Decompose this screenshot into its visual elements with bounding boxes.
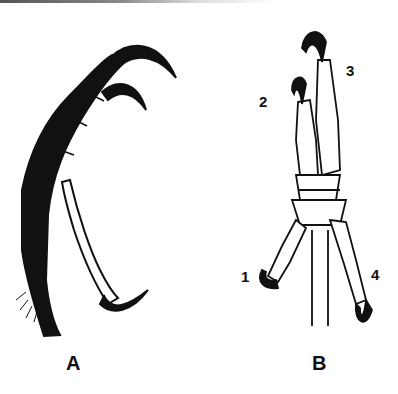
toe-label-3: 3 [346, 62, 354, 79]
talon-a-drawing [16, 46, 176, 336]
toe-label-4: 4 [371, 266, 379, 283]
panel-b-label: B [312, 352, 326, 375]
foot-b-drawing [260, 32, 372, 326]
panel-a-label: A [66, 352, 80, 375]
toe-label-2: 2 [259, 93, 267, 110]
toe-label-1: 1 [241, 268, 249, 285]
claw-illustration [0, 0, 398, 394]
